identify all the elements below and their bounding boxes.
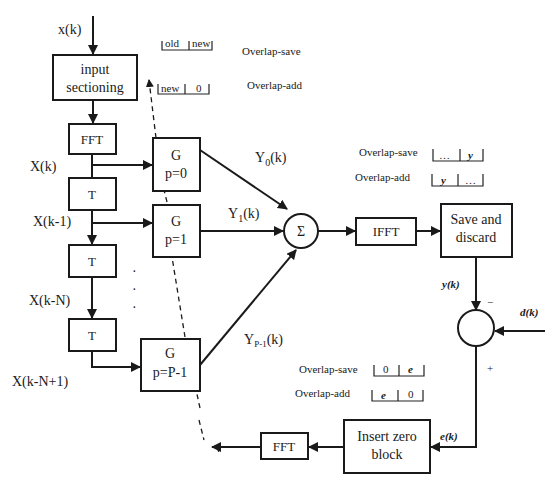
ifft-label: IFFT [373,224,400,239]
cell-new: new [192,37,210,49]
arrow-to-gp [92,351,140,367]
signal-ek: e(k) [440,430,458,443]
overlap-save-label: Overlap-save [359,146,418,158]
ellipsis-dot: · [132,264,137,279]
error-node [458,310,494,346]
signal-y0: Y0(k) [255,150,287,168]
g0-label: p=0 [165,166,187,181]
output-overlap-add-annotation: Overlap-add y … [355,171,483,186]
cell-ellipsis: … [465,174,476,186]
g1-label: p=1 [165,232,187,247]
signal-xkn1: X(k-N+1) [12,374,68,390]
signal-yp: YP-1(k) [244,332,283,349]
input-sectioning-label: sectioning [66,80,124,95]
signal-y1: Y1(k) [228,206,260,224]
signal-xk: X(k) [30,159,57,175]
overlap-save-label: Overlap-save [242,45,301,57]
fft-label: FFT [273,439,295,454]
sum-symbol: Σ [297,224,305,239]
output-overlap-save-annotation: Overlap-save … y [359,146,483,161]
cell-y: y [466,149,473,161]
update-path [149,80,156,138]
gp-label: G [165,346,175,361]
cell-zero: 0 [383,363,389,375]
cell-zero: 0 [408,388,414,400]
g1-block [153,205,200,257]
overlap-add-label: Overlap-add [247,79,302,91]
g0-label: G [171,148,181,163]
delay-label: T [88,328,96,343]
update-path [199,420,204,440]
cell-ellipsis: … [439,149,450,161]
update-path [172,257,185,337]
cell-e: e [408,363,413,375]
input-overlap-add-annotation: new 0 Overlap-add [158,79,302,94]
cell-e: e [381,389,386,401]
signal-yk: y(k) [440,278,460,291]
signal-xkn: X(k-N) [29,293,71,309]
save-discard-label: Save and [451,212,502,227]
update-path [217,447,220,455]
fft-label: FFT [81,132,103,147]
overlap-add-label: Overlap-add [295,387,350,399]
error-overlap-add-annotation: Overlap-add e 0 [295,387,423,401]
save-discard-label: discard [456,230,496,245]
overlap-save-label: Overlap-save [299,363,358,375]
signal-dk: d(k) [520,306,538,319]
input-overlap-save-annotation: old new Overlap-save [162,37,301,57]
arrow-yp [200,250,296,365]
block-diagram: x(k) input sectioning FFT X(k) T X(k-1) … [0,0,559,488]
cell-zero: 0 [196,82,202,94]
input-signal-label: x(k) [58,22,82,38]
g1-label: G [171,214,181,229]
gp-label: p=P-1 [153,365,187,380]
minus-sign: − [487,296,493,308]
cell-y: y [439,174,446,186]
plus-sign: + [487,362,493,374]
ellipsis-dot: · [132,282,137,297]
insert-zero-label: Insert zero [357,429,416,444]
overlap-add-label: Overlap-add [355,171,410,183]
g0-block [153,138,200,191]
ellipsis-dot: · [132,300,137,315]
signal-xk1: X(k-1) [33,214,71,230]
delay-label: T [88,187,96,202]
error-overlap-save-annotation: Overlap-save 0 e [299,363,424,376]
insert-zero-label: block [371,447,402,462]
cell-new: new [161,82,179,94]
delay-label: T [88,254,96,269]
cell-old: old [165,37,180,49]
input-sectioning-label: input [81,62,110,77]
